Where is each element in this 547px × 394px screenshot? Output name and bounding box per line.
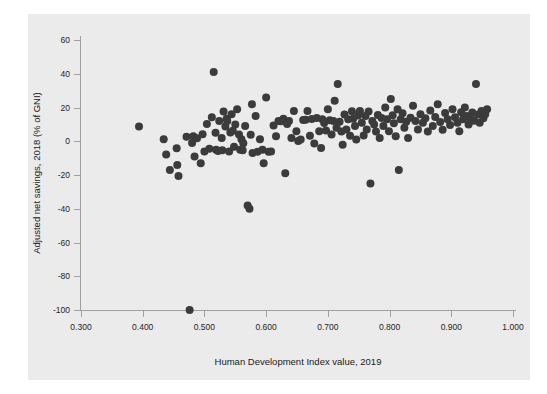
- scatter-point: [387, 95, 395, 103]
- scatter-point: [166, 166, 174, 174]
- scatter-point: [208, 113, 216, 121]
- scatter-point: [376, 134, 384, 142]
- scatter-point: [310, 140, 318, 148]
- scatter-point: [191, 152, 199, 160]
- scatter-point: [351, 122, 359, 130]
- scatter-point: [366, 179, 374, 187]
- x-axis-title: Human Development Index value, 2019: [215, 356, 382, 367]
- scatter-point: [285, 117, 293, 125]
- y-tick-label: -40: [58, 204, 71, 214]
- x-tick-label: 0.500: [194, 322, 216, 332]
- scatter-point: [281, 169, 289, 177]
- scatter-point: [363, 125, 371, 133]
- scatter-point: [461, 104, 469, 112]
- scatter-point: [218, 134, 226, 142]
- scatter-point: [239, 139, 247, 147]
- scatter-point: [426, 107, 434, 115]
- scatter-point: [231, 120, 239, 128]
- y-tick-label: -80: [58, 271, 71, 281]
- scatter-point: [324, 105, 332, 113]
- scatter-point: [446, 121, 454, 129]
- y-tick-label: -60: [58, 238, 71, 248]
- scatter-point: [252, 112, 260, 120]
- y-tick-label: 40: [61, 69, 71, 79]
- y-axis-ticks: 6040200-20-40-60-80-100: [53, 35, 81, 315]
- scatter-point: [399, 109, 407, 117]
- scatter-point: [272, 132, 280, 140]
- scatter-point: [365, 108, 373, 116]
- scatter-point: [297, 136, 305, 144]
- scatter-point: [385, 127, 393, 135]
- y-tick-label: -100: [53, 305, 70, 315]
- scatter-point: [292, 127, 300, 135]
- scatter-point: [328, 131, 336, 139]
- scatter-point: [245, 205, 253, 213]
- scatter-point: [381, 104, 389, 112]
- scatter-point: [434, 100, 442, 108]
- scatter-point: [392, 132, 400, 140]
- x-axis-ticks: 0.3000.4000.5000.6000.7000.8000.9001.000: [70, 311, 524, 333]
- scatter-point: [162, 150, 170, 158]
- scatter-point: [472, 80, 480, 88]
- scatter-point: [135, 122, 143, 130]
- scatter-point: [241, 122, 249, 130]
- scatter-point: [339, 141, 347, 149]
- scatter-point: [248, 100, 256, 108]
- scatter-point: [175, 172, 183, 180]
- scatter-point: [336, 118, 344, 126]
- y-tick-label: 60: [61, 35, 71, 45]
- y-tick-label: 0: [65, 136, 70, 146]
- scatter-point: [331, 97, 339, 105]
- scatter-point: [421, 114, 429, 122]
- scatter-point: [449, 105, 457, 113]
- scatter-point: [223, 117, 231, 125]
- scatter-point: [205, 145, 213, 153]
- scatter-plot: 6040200-20-40-60-80-100 0.3000.4000.5000…: [0, 0, 547, 394]
- scatter-point: [212, 129, 220, 137]
- scatter-point: [370, 120, 378, 128]
- scatter-point: [409, 102, 417, 110]
- y-tick-label: 20: [61, 103, 71, 113]
- chart-figure: 6040200-20-40-60-80-100 0.3000.4000.5000…: [0, 0, 547, 394]
- scatter-point: [183, 133, 191, 141]
- scatter-point: [429, 122, 437, 130]
- scatter-point: [239, 146, 247, 154]
- scatter-point: [404, 134, 412, 142]
- scatter-point: [173, 144, 181, 152]
- x-tick-label: 0.400: [132, 322, 154, 332]
- x-tick-label: 0.700: [317, 322, 339, 332]
- scatter-point: [303, 107, 311, 115]
- scatter-point: [334, 80, 342, 88]
- x-tick-label: 1.000: [502, 322, 524, 332]
- scatter-point: [306, 132, 314, 140]
- y-tick-label: -20: [58, 170, 71, 180]
- scatter-point: [455, 127, 463, 135]
- scatter-point: [315, 127, 323, 135]
- y-axis-title: Adjusted net savings, 2018 (% of GNI): [31, 92, 42, 254]
- scatter-point: [247, 131, 255, 139]
- scatter-point: [186, 306, 194, 314]
- scatter-point: [197, 159, 205, 167]
- scatter-point: [215, 117, 223, 125]
- scatter-point: [210, 68, 218, 76]
- scatter-point: [414, 125, 422, 133]
- scatter-point: [218, 146, 226, 154]
- scatter-point: [260, 159, 268, 167]
- scatter-point: [199, 130, 207, 138]
- scatter-point: [352, 136, 360, 144]
- scatter-point: [203, 120, 211, 128]
- scatter-point: [160, 135, 168, 143]
- scatter-point: [358, 119, 366, 127]
- scatter-point: [483, 105, 491, 113]
- scatter-point: [233, 105, 241, 113]
- scatter-point: [411, 117, 419, 125]
- scatter-point: [220, 108, 228, 116]
- x-tick-label: 0.300: [70, 322, 92, 332]
- scatter-point: [439, 126, 447, 134]
- x-tick-label: 0.600: [256, 322, 278, 332]
- x-tick-label: 0.900: [441, 322, 463, 332]
- scatter-point: [436, 118, 444, 126]
- scatter-point: [390, 119, 398, 127]
- data-points: [135, 68, 491, 314]
- scatter-point: [256, 135, 264, 143]
